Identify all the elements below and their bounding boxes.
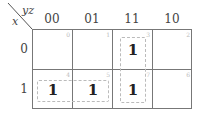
col-label-11: 11 <box>112 12 152 26</box>
group-cells-4-5 <box>37 80 109 102</box>
kmap-grid: 0 1 3 1 2 4 1 5 1 7 1 6 <box>32 29 192 109</box>
col-label-00: 00 <box>32 12 72 26</box>
row-label-1: 1 <box>18 82 30 96</box>
cell-index: 1 <box>106 31 110 38</box>
cell-index: 0 <box>66 31 70 38</box>
cell-index: 7 <box>146 71 150 78</box>
cell-0: 0 <box>33 30 73 70</box>
cell-index: 6 <box>186 71 190 78</box>
cell-index: 4 <box>66 71 70 78</box>
cell-index: 2 <box>186 31 190 38</box>
cell-6: 6 <box>153 70 193 110</box>
cell-1: 1 <box>73 30 113 70</box>
row-var-label: x <box>12 15 18 28</box>
row-label-0: 0 <box>18 42 30 56</box>
cell-2: 2 <box>153 30 193 70</box>
cell-index: 5 <box>106 71 110 78</box>
cell-index: 3 <box>146 31 150 38</box>
col-label-10: 10 <box>152 12 192 26</box>
col-label-01: 01 <box>72 12 112 26</box>
group-cells-3-7 <box>120 37 146 103</box>
